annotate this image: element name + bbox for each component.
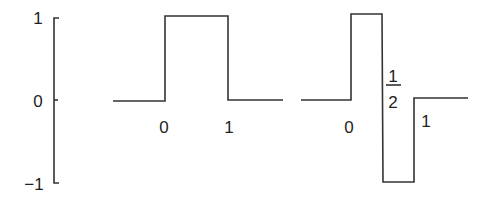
box-x-label-one: 1: [224, 118, 233, 137]
haar-x-label-one: 1: [421, 112, 430, 131]
haar-wavelet-curve: [301, 14, 468, 182]
haar-x-label-zero: 0: [344, 118, 353, 137]
y-axis: 1 0 −1: [24, 9, 59, 194]
y-tick-label-zero: 0: [33, 92, 42, 111]
step-function-diagram: 1 0 −1 0 1 0 1 2 1: [0, 0, 491, 205]
half-label-denominator: 2: [388, 93, 397, 112]
box-function-curve: [113, 16, 283, 101]
box-function-plot: 0 1: [113, 16, 283, 137]
haar-wavelet-plot: 0 1 2 1: [301, 14, 468, 182]
y-tick-label-one: 1: [33, 9, 42, 28]
y-tick-label-minus-one: −1: [24, 175, 43, 194]
half-label-numerator: 1: [388, 67, 397, 86]
box-x-label-zero: 0: [159, 118, 168, 137]
